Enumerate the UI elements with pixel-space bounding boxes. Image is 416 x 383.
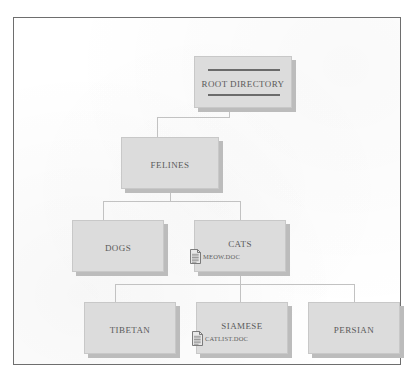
document-icon (190, 249, 201, 264)
node-cats[interactable]: CATS (194, 220, 286, 272)
node-tibetan[interactable]: TIBETAN (84, 302, 176, 354)
edge-root-to-felines-horizontal (157, 117, 230, 118)
node-dogs[interactable]: DOGS (72, 220, 164, 272)
directory-tree-diagram: ROOT DIRECTORY FELINES DOGS CATS (14, 18, 400, 364)
edge-cats-to-tibetan (115, 284, 116, 303)
node-label-persian: PERSIAN (309, 325, 399, 335)
root-rule-top (208, 69, 280, 71)
edge-cats-bus (115, 284, 354, 285)
node-label-felines: FELINES (122, 160, 218, 170)
edge-felines-to-cats (240, 201, 241, 221)
node-felines[interactable]: FELINES (121, 137, 219, 189)
node-label-root-directory: ROOT DIRECTORY (195, 79, 291, 89)
file-catlist-doc[interactable]: CATLIST.DOC (192, 331, 248, 346)
node-siamese[interactable]: SIAMESE (196, 302, 288, 354)
edge-felines-stem (170, 189, 171, 201)
edge-root-to-felines-vertical-b (157, 117, 158, 138)
file-meow-doc[interactable]: MEOW.DOC (190, 249, 240, 264)
edge-cats-stem (240, 272, 241, 284)
edge-cats-to-siamese (240, 284, 241, 303)
node-label-dogs: DOGS (73, 243, 163, 253)
edge-cats-to-persian (354, 284, 355, 303)
edge-felines-to-dogs (103, 201, 104, 221)
document-icon (192, 331, 203, 346)
node-label-siamese: SIAMESE (197, 321, 287, 331)
node-label-cats: CATS (195, 239, 285, 249)
node-persian[interactable]: PERSIAN (308, 302, 400, 354)
root-rule-bottom (208, 94, 280, 96)
diagram-frame: ROOT DIRECTORY FELINES DOGS CATS (13, 17, 401, 365)
file-name-catlist-doc: CATLIST.DOC (205, 335, 248, 342)
node-root-directory[interactable]: ROOT DIRECTORY (194, 56, 292, 108)
node-label-tibetan: TIBETAN (85, 325, 175, 335)
edge-felines-bus (103, 201, 240, 202)
file-name-meow-doc: MEOW.DOC (203, 253, 240, 260)
